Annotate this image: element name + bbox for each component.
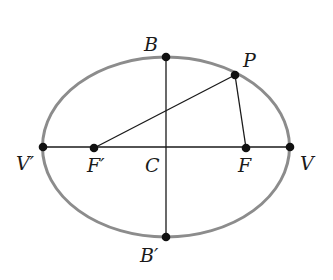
label-c: C — [145, 154, 160, 176]
ellipse-diagram: B P V′ F′ C F V B′ — [0, 0, 333, 280]
segment-p-f-prime — [94, 75, 235, 148]
label-f-prime: F′ — [86, 154, 105, 176]
point-v — [286, 143, 295, 152]
label-v: V — [300, 152, 316, 174]
point-b-prime — [162, 233, 171, 242]
point-f — [242, 144, 251, 153]
point-p — [231, 71, 240, 80]
label-b: B — [143, 33, 158, 55]
point-f-prime — [90, 144, 99, 153]
label-f: F — [237, 154, 252, 176]
point-v-prime — [39, 143, 48, 152]
segment-p-f — [235, 75, 246, 148]
point-b — [162, 53, 171, 62]
label-b-prime: B′ — [139, 244, 159, 266]
label-v-prime: V′ — [16, 152, 35, 174]
label-p: P — [242, 49, 257, 71]
